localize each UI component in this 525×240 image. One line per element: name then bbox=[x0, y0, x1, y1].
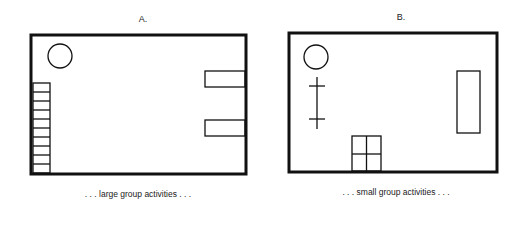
panel-b-grid-table bbox=[352, 136, 381, 171]
panel-b-divider bbox=[309, 77, 325, 129]
panel-b-room bbox=[289, 33, 497, 172]
panel-a-room bbox=[31, 35, 246, 174]
panel-b-circle-table bbox=[304, 45, 328, 69]
panel-a-caption: . . . large group activities . . . bbox=[58, 189, 218, 199]
panel-b-room-outline bbox=[289, 33, 497, 172]
panel-a-circle-table bbox=[48, 44, 72, 68]
panel-a-table-upper bbox=[205, 71, 245, 87]
panel-a-room-outline bbox=[31, 35, 246, 174]
panel-a-table-lower bbox=[205, 120, 245, 136]
panel-b-caption: . . . small group activities . . . bbox=[316, 187, 476, 197]
panel-b-tall-table bbox=[457, 71, 480, 133]
panel-a-shelving bbox=[33, 83, 50, 173]
